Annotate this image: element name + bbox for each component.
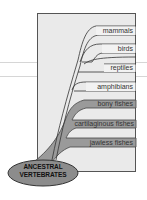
taxon-label-reptiles: reptiles (110, 64, 133, 72)
taxon-label-jawless-fishes: jawless fishes (90, 139, 133, 147)
taxon-label-bony-fishes: bony fishes (98, 100, 133, 108)
root-label: ANCESTRAL VERTEBRATES (8, 163, 78, 179)
taxon-label-amphibians: amphibians (97, 83, 133, 91)
taxon-label-cartilaginous-fishes: cartilaginous fishes (74, 120, 134, 128)
root-label-line2: VERTEBRATES (8, 171, 78, 179)
root-label-line1: ANCESTRAL (8, 163, 78, 171)
taxon-label-mammals: mammals (103, 27, 133, 35)
taxon-label-birds: birds (118, 45, 133, 53)
